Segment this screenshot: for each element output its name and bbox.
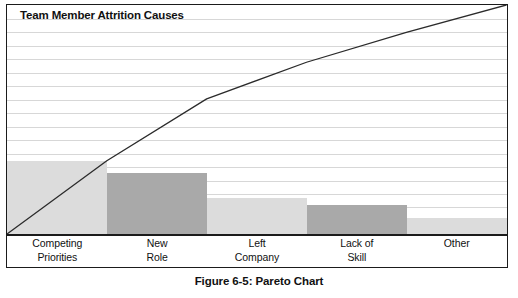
category-label-line1: Other — [444, 237, 470, 249]
bar — [107, 173, 207, 235]
chart-title: Team Member Attrition Causes — [20, 9, 184, 21]
category-label-line1: Competing — [32, 237, 82, 249]
gridline — [7, 46, 506, 47]
bar — [407, 218, 507, 234]
category-label-line2: Priorities — [7, 251, 107, 265]
gridline — [7, 32, 506, 33]
gridline — [7, 86, 506, 87]
category-label: Lack ofSkill — [307, 237, 407, 264]
category-label-line1: Left — [248, 237, 265, 249]
bar — [207, 198, 307, 235]
plot-area — [7, 5, 506, 234]
category-label-line1: New — [147, 237, 168, 249]
gridline — [7, 59, 506, 60]
figure-caption: Figure 6-5: Pareto Chart — [0, 275, 518, 287]
gridline — [7, 154, 506, 155]
pareto-chart-figure: Team Member Attrition Causes CompetingPr… — [0, 0, 518, 298]
gridline — [7, 100, 506, 101]
category-axis-line — [7, 234, 506, 236]
category-label: CompetingPriorities — [7, 237, 107, 264]
category-label-line2: Role — [107, 251, 207, 265]
category-label: LeftCompany — [207, 237, 307, 264]
category-label-line2: Company — [207, 251, 307, 265]
category-label: Other — [407, 237, 507, 251]
gridline — [7, 73, 506, 74]
category-label-line1: Lack of — [340, 237, 373, 249]
category-axis-labels: CompetingPrioritiesNewRoleLeftCompanyLac… — [7, 237, 506, 267]
gridline — [7, 127, 506, 128]
gridline — [7, 140, 506, 141]
gridline — [7, 113, 506, 114]
bar — [7, 161, 107, 234]
bar — [307, 205, 407, 235]
category-label: NewRole — [107, 237, 207, 264]
category-label-line2: Skill — [307, 251, 407, 265]
